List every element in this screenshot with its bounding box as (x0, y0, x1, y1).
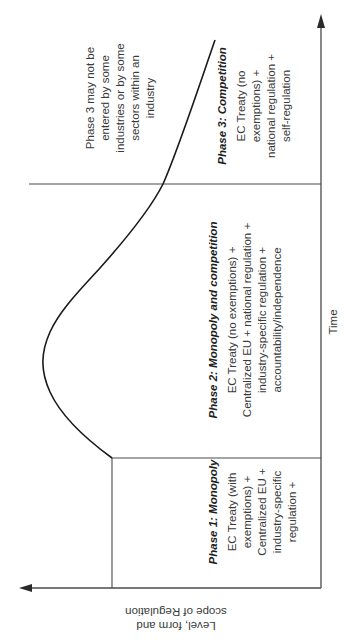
phase3-block: Phase 3: Competition EC Treaty (no exemp… (216, 47, 292, 165)
phase3-line: EC Treaty (no (235, 71, 247, 142)
regulation-label-line: scope of Regulation (125, 606, 227, 618)
phase1-line: exemptions) + (241, 475, 253, 548)
phase2-line: Centralized EU + national regulation + (241, 223, 253, 418)
phase2-line: accountability/independence (271, 247, 283, 392)
time-axis-arrow-icon (317, 14, 325, 28)
time-label: Time (327, 309, 339, 334)
phase1-line: EC Treaty (with (226, 473, 238, 552)
note-line: industry (144, 78, 156, 119)
regulation-phases-diagram: Phase 3 may not be entered by some indus… (0, 0, 344, 642)
time-axis-label: Time (327, 309, 339, 334)
regulation-axis-arrow-icon (19, 584, 32, 592)
phase3-note: Phase 3 may not be entered by some indus… (84, 43, 156, 152)
phase2-line: EC Treaty (no exemptions) + (226, 246, 238, 393)
note-line: Phase 3 may not be (84, 47, 96, 149)
note-line: sectors within an (129, 55, 141, 141)
phase1-line: regulation + (286, 482, 298, 543)
phase1-block: Phase 1: Monopoly EC Treaty (with exempt… (207, 459, 298, 564)
phase1-line: Centralized EU + (256, 468, 268, 556)
phase3-line: national regulation + (265, 54, 277, 158)
phase3-line: self-regulation (280, 70, 292, 142)
phase3-line: exemptions) + (250, 69, 262, 142)
regulation-label-line: Level, form and (136, 620, 215, 632)
phase2-block: Phase 2: Monopoly and competition EC Tre… (207, 222, 283, 419)
phase2-title: Phase 2: Monopoly and competition (207, 222, 219, 419)
regulation-axis-label: scope of Regulation Level, form and (125, 606, 227, 632)
phase3-title: Phase 3: Competition (216, 47, 228, 165)
phase1-line: industry-specific (271, 471, 283, 554)
phase2-line: industry-specific regulation + (256, 247, 268, 393)
phase1-title: Phase 1: Monopoly (207, 459, 219, 564)
note-line: entered by some (99, 55, 111, 141)
note-line: industries or by some (114, 43, 126, 152)
